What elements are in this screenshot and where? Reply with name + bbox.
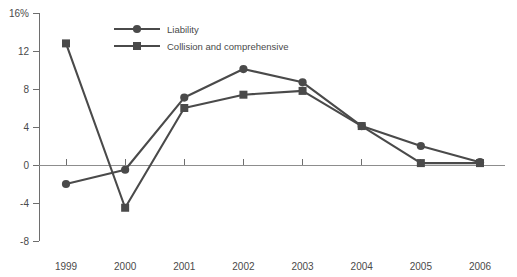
data-point-marker-square	[476, 159, 484, 167]
y-tick-label: 12	[18, 46, 30, 57]
y-axis: -8-40481216%	[9, 8, 39, 247]
x-tick-label: 1999	[55, 261, 78, 272]
y-tick-label: 4	[23, 122, 29, 133]
y-tick-label: 8	[23, 84, 29, 95]
legend-marker-square	[133, 42, 141, 50]
data-point-marker-circle	[121, 166, 129, 174]
legend-label: Collision and comprehensive	[167, 41, 288, 52]
series-2	[62, 39, 484, 211]
series-1	[62, 65, 484, 188]
x-tick-label: 2000	[114, 261, 137, 272]
data-point-marker-square	[121, 204, 129, 212]
data-point-marker-square	[180, 104, 188, 112]
data-point-marker-square	[358, 122, 366, 130]
y-tick-label: -4	[20, 198, 29, 209]
data-point-marker-circle	[180, 93, 188, 101]
x-tick-label: 2005	[410, 261, 433, 272]
legend-label: Liability	[167, 24, 199, 35]
data-point-marker-circle	[239, 65, 247, 73]
data-point-marker-square	[239, 91, 247, 99]
data-point-marker-circle	[417, 142, 425, 150]
legend-marker-circle	[133, 25, 141, 33]
legend-item-2: Collision and comprehensive	[114, 41, 288, 52]
x-tick-label: 2006	[469, 261, 492, 272]
chart-legend: LiabilityCollision and comprehensive	[114, 24, 288, 52]
series-line	[66, 43, 480, 207]
x-tick-label: 2004	[351, 261, 374, 272]
y-tick-label: 16%	[9, 8, 29, 19]
y-tick-label: 0	[23, 160, 29, 171]
line-chart: -8-40481216% 199920002001200220032004200…	[0, 0, 517, 277]
y-tick-label: -8	[20, 236, 29, 247]
data-point-marker-circle	[298, 78, 306, 86]
legend-item-1: Liability	[114, 24, 199, 35]
chart-canvas: -8-40481216% 199920002001200220032004200…	[0, 0, 517, 277]
data-point-marker-square	[299, 87, 307, 95]
data-point-marker-square	[62, 39, 70, 47]
x-tick-label: 2002	[232, 261, 255, 272]
data-point-marker-square	[417, 159, 425, 167]
x-axis: 19992000200120022003200420052006	[55, 159, 492, 272]
x-tick-label: 2003	[291, 261, 314, 272]
x-tick-label: 2001	[173, 261, 196, 272]
data-point-marker-circle	[62, 180, 70, 188]
series-layer	[62, 39, 484, 211]
